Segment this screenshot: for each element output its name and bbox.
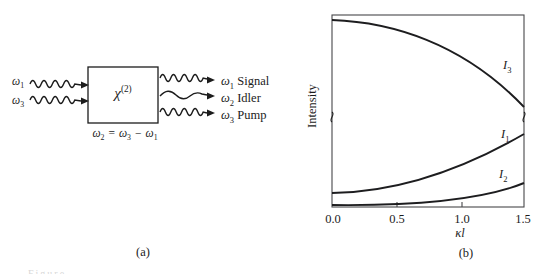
x-tick-1.5: 1.5 [515,212,531,226]
omega-symbol: ω [119,127,127,139]
y-axis-label: Intensity [305,84,319,128]
x-axis-label: κl [455,226,464,240]
omega-symbol: ω [92,127,100,139]
output-wave-idler [160,91,215,99]
x-tick-0.0: 0.0 [325,212,341,226]
output-label-signal: ω1 Signal [221,74,269,88]
frequency-relation-equation: ω2=ω3−ω1 [83,127,167,140]
cropped-figure-caption: Figure [28,268,348,274]
omega-symbol: ω [146,127,154,139]
chi-symbol: χ [114,85,121,101]
output-label-idler: ω2 Idler [221,91,261,105]
omega-subscript: 3 [20,100,24,109]
output-name: Pump [237,108,266,122]
crystal-chi2-label: χ(2) [88,85,158,102]
input-wave-omega1 [30,81,89,89]
arrowhead-icon [207,77,215,84]
omega-subscript: 1 [230,81,234,91]
output-name: Idler [237,91,261,105]
curve-label-I1: I1 [501,127,509,142]
omega-subscript: 3 [127,133,131,142]
panel-b-caption: (b) [453,246,479,260]
omega-symbol: ω [221,74,230,88]
chi-superscript: (2) [121,84,132,94]
omega-subscript: 1 [20,81,24,90]
x-tick-0.5: 0.5 [389,212,405,226]
plot-frame [332,15,524,207]
input-wave-omega3 [30,97,89,105]
omega-subscript: 2 [230,98,234,108]
x-tick-1.0: 1.0 [454,212,470,226]
omega-subscript: 3 [230,115,234,125]
curve-I3 [332,20,524,107]
omega-symbol: ω [221,91,230,105]
panel-a-caption: (a) [130,245,156,259]
figure-parametric-amplification: ω1 ω3 χ(2) ω2=ω3−ω1 ω1 Signal ω2 Idler ω… [0,0,545,274]
input-label-omega3: ω3 [12,94,24,107]
curve-I1 [332,134,524,193]
curve-I2 [332,183,524,205]
omega-symbol: ω [221,108,230,122]
arrowhead-icon [207,110,215,117]
output-wave-pump [160,109,215,117]
output-wave-signal [160,75,215,84]
arrowhead-icon [207,93,215,100]
curve-label-I3: I3 [503,58,511,73]
equals-sign: = [108,127,115,139]
omega-subscript: 1 [154,133,158,142]
minus-sign: − [135,127,142,139]
curve-label-I2: I2 [499,167,507,182]
output-name: Signal [237,74,269,88]
omega-subscript: 2 [101,133,105,142]
input-label-omega1: ω1 [12,75,24,88]
omega-symbol: ω [12,75,20,87]
omega-symbol: ω [12,94,20,106]
output-label-pump: ω3 Pump [221,108,266,122]
I-subscript: 2 [503,174,507,184]
I-subscript: 1 [505,134,509,144]
I-subscript: 3 [507,65,511,75]
